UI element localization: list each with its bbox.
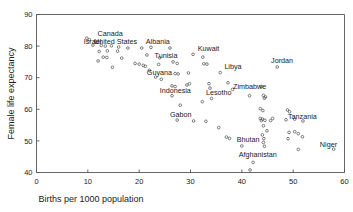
x-tick-label: 50 — [289, 177, 297, 186]
data-point — [192, 120, 195, 123]
data-point — [208, 82, 211, 85]
y-axis-title: Female life expectancy — [6, 47, 16, 140]
point-label: Indonesia — [160, 86, 191, 95]
x-tick-label: 40 — [238, 177, 246, 186]
point-label: Gabon — [170, 110, 192, 119]
data-point — [176, 62, 179, 65]
data-point — [293, 130, 296, 133]
point-label: Tanzania — [288, 112, 317, 121]
point-label: Bhutan — [237, 135, 260, 144]
data-point — [228, 137, 231, 140]
data-point — [252, 161, 255, 164]
data-point — [276, 66, 279, 69]
data-point — [120, 57, 123, 60]
point-label: United States — [94, 37, 138, 46]
data-point — [219, 71, 222, 74]
data-point — [261, 134, 264, 137]
data-point — [262, 124, 265, 127]
data-point — [271, 117, 274, 120]
data-point — [140, 47, 143, 50]
data-point — [150, 46, 153, 49]
x-tick-label: 60 — [340, 177, 348, 186]
data-point — [117, 46, 120, 49]
data-point — [288, 131, 291, 134]
data-point — [297, 148, 300, 151]
data-point — [187, 72, 190, 75]
data-point — [287, 137, 290, 140]
point-label: Lesotho — [206, 88, 232, 97]
data-point — [171, 94, 174, 97]
data-point — [217, 126, 220, 129]
chart-canvas: 4050607080900102030405060Births per 1000… — [0, 0, 353, 212]
data-point — [138, 63, 141, 66]
data-point — [192, 53, 195, 56]
data-point — [205, 120, 208, 123]
data-point — [203, 62, 206, 65]
x-axis-title: Births per 1000 population — [39, 194, 144, 204]
scatter-chart: 4050607080900102030405060Births per 1000… — [0, 0, 353, 212]
data-points — [85, 37, 335, 171]
data-point — [146, 54, 149, 57]
data-point — [105, 56, 108, 59]
point-label: Kuwait — [198, 44, 220, 53]
point-label: Libya — [224, 62, 241, 71]
data-point — [201, 56, 204, 59]
x-tick-label: 30 — [186, 177, 194, 186]
data-point — [266, 129, 269, 132]
data-point — [174, 72, 177, 75]
x-tick-label: 10 — [84, 177, 92, 186]
y-tick-label: 90 — [24, 10, 32, 19]
x-axis: 0102030405060 — [34, 170, 348, 186]
data-point — [263, 137, 266, 140]
x-tick-label: 20 — [135, 177, 143, 186]
data-point — [263, 145, 266, 148]
data-point — [297, 132, 300, 135]
data-point — [240, 145, 243, 148]
data-point — [248, 94, 251, 97]
data-point — [111, 66, 114, 69]
data-point — [97, 60, 100, 63]
data-point — [262, 141, 265, 144]
y-tick-label: 80 — [24, 42, 32, 51]
data-point — [134, 62, 137, 65]
y-tick-label: 70 — [24, 73, 32, 82]
data-point — [169, 47, 172, 50]
data-point — [116, 50, 119, 53]
data-point — [201, 100, 204, 103]
y-axis: 405060708090 — [24, 10, 39, 177]
point-label: Albania — [146, 37, 170, 46]
point-label: Jordan — [271, 56, 293, 65]
data-point — [177, 73, 180, 76]
data-point — [206, 63, 209, 66]
data-point — [157, 63, 160, 66]
data-point — [264, 119, 267, 122]
y-tick-label: 40 — [24, 168, 32, 177]
data-point — [179, 104, 182, 107]
data-point — [106, 49, 109, 52]
point-label: Zimbabwe — [233, 82, 266, 91]
point-label: Guyana — [147, 68, 172, 77]
y-tick-label: 50 — [24, 137, 32, 146]
y-tick-label: 60 — [24, 105, 32, 114]
data-point — [249, 169, 252, 172]
point-labels: CanadaIsraelUnited StatesAlbaniaTunisiaK… — [84, 29, 338, 160]
x-tick-label: 0 — [34, 177, 38, 186]
data-point — [225, 136, 228, 139]
data-point — [102, 56, 105, 59]
data-point — [262, 109, 265, 112]
data-point — [160, 78, 163, 81]
data-point — [210, 97, 213, 100]
point-label: Afghanistan — [239, 150, 277, 159]
data-point — [285, 118, 288, 121]
point-label: Tunisia — [155, 51, 178, 60]
data-point — [227, 81, 230, 84]
data-point — [172, 61, 175, 64]
data-point — [98, 50, 101, 53]
data-point — [127, 47, 130, 50]
data-point — [259, 107, 262, 110]
data-point — [301, 135, 304, 138]
point-label: Niger — [320, 140, 338, 149]
